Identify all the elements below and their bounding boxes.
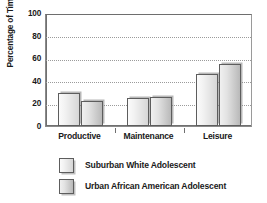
legend-label-series-1: Urban African American Adolescent	[85, 181, 226, 192]
plot-area	[45, 14, 252, 127]
legend-item-series-0: Suburban White Adolescent	[59, 155, 264, 176]
bar-productive-series-0	[58, 93, 80, 126]
x-tick-label: Leisure	[183, 129, 252, 143]
series-0-swatch	[59, 158, 74, 173]
bar-leisure-series-1	[219, 64, 241, 125]
chart-legend: Suburban White Adolescent Urban African …	[59, 155, 264, 197]
y-tick-label: 0	[21, 122, 41, 131]
x-axis-tick-labels: ProductiveMaintenanceLeisure	[45, 129, 252, 143]
y-axis-title: Percentage of Time Spent	[4, 0, 18, 78]
bar-maintenance-series-0	[127, 98, 149, 125]
bar-productive-series-1	[81, 101, 103, 126]
y-tick-label: 60	[21, 54, 41, 63]
bar-leisure-series-0	[196, 74, 218, 126]
x-tick-label: Productive	[45, 129, 114, 143]
y-tick-label: 80	[21, 32, 41, 41]
bar-chart-figure: Percentage of Time Spent 020406080100 Pr…	[0, 0, 267, 203]
y-tick-label: 100	[21, 9, 41, 18]
y-tick-label: 40	[21, 77, 41, 86]
y-tick-label: 20	[21, 99, 41, 108]
y-axis-tick-labels: 020406080100	[21, 9, 41, 129]
y-axis-line	[46, 15, 47, 126]
gridline	[46, 60, 251, 61]
legend-label-series-0: Suburban White Adolescent	[85, 160, 196, 171]
bar-maintenance-series-1	[150, 97, 172, 125]
legend-item-series-1: Urban African American Adolescent	[59, 176, 264, 197]
x-tick-label: Maintenance	[114, 129, 183, 143]
gridline	[46, 37, 251, 38]
series-1-swatch	[59, 179, 74, 194]
